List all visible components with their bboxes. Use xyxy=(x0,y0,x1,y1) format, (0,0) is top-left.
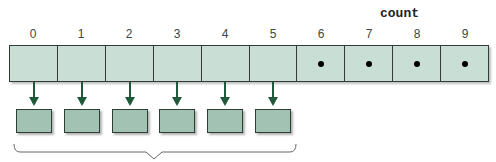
array-cell-4 xyxy=(202,46,250,81)
index-label-6: 6 xyxy=(297,27,345,41)
index-label-1: 1 xyxy=(57,27,105,41)
index-label-3: 3 xyxy=(153,27,201,41)
null-dot-icon xyxy=(318,61,324,67)
arrow-head-icon xyxy=(29,97,39,106)
array-cell-8 xyxy=(393,46,441,81)
array xyxy=(9,45,489,82)
array-cell-2 xyxy=(106,46,154,81)
array-cell-1 xyxy=(58,46,106,81)
index-label-7: 7 xyxy=(345,27,393,41)
arrow-head-icon xyxy=(77,97,87,106)
arrow-head-icon xyxy=(125,97,135,106)
array-cell-3 xyxy=(154,46,202,81)
object-box-3 xyxy=(159,109,195,133)
array-cell-5 xyxy=(250,46,298,81)
index-label-8: 8 xyxy=(393,27,441,41)
arrow-head-icon xyxy=(268,97,278,106)
brace-icon xyxy=(0,140,496,162)
array-cell-6 xyxy=(297,46,345,81)
arrow-head-icon xyxy=(172,97,182,106)
object-box-0 xyxy=(16,109,52,133)
null-dot-icon xyxy=(366,61,372,67)
array-cell-7 xyxy=(345,46,393,81)
index-label-2: 2 xyxy=(105,27,153,41)
index-label-4: 4 xyxy=(201,27,249,41)
index-label-0: 0 xyxy=(9,27,57,41)
object-box-2 xyxy=(112,109,148,133)
array-cell-0 xyxy=(10,46,58,81)
object-box-4 xyxy=(207,109,243,133)
count-label: count xyxy=(380,6,480,21)
index-label-5: 5 xyxy=(249,27,297,41)
null-dot-icon xyxy=(462,61,468,67)
arrow-head-icon xyxy=(220,97,230,106)
null-dot-icon xyxy=(414,61,420,67)
array-cell-9 xyxy=(441,46,488,81)
object-box-1 xyxy=(64,109,100,133)
object-box-5 xyxy=(255,109,291,133)
index-label-9: 9 xyxy=(441,27,489,41)
